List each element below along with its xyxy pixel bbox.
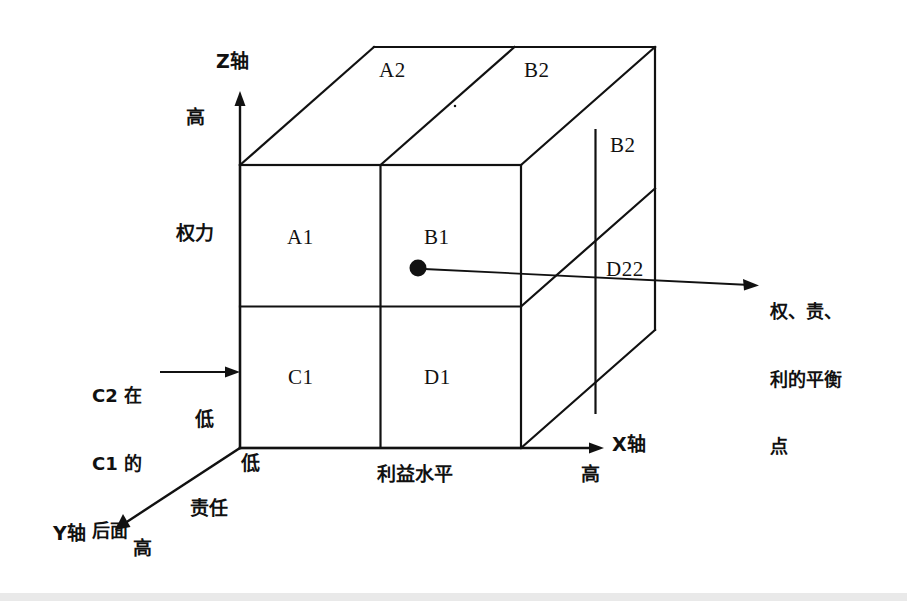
cell-label-a1: A1: [287, 225, 314, 250]
y-axis-name: Y轴: [53, 522, 86, 544]
cell-label-b1: B1: [424, 225, 450, 250]
z-axis-name: Z轴: [216, 50, 249, 72]
balance-point-arrowhead: [743, 279, 759, 291]
hidden-cell-note-line-3: 后面: [92, 520, 142, 543]
hidden-cell-note-line-2: C1 的: [92, 453, 142, 476]
cell-label-a2: A2: [379, 58, 406, 83]
cell-label-b2-side: B2: [610, 133, 636, 158]
x-axis-name: X轴: [612, 433, 646, 455]
x-axis-quantity-label: 利益水平: [377, 463, 453, 485]
z-axis-low-label: 低: [195, 408, 214, 430]
y-axis-quantity-label: 责任: [190, 497, 228, 519]
balance-point-dot: [410, 260, 427, 277]
balance-point-line-2: 利的平衡: [770, 369, 842, 392]
cell-label-b2-top: B2: [524, 58, 550, 83]
cell-label-c1: C1: [288, 365, 314, 390]
x-axis-arrowhead: [589, 443, 604, 454]
diagram-canvas: Z轴 高 低 权力 X轴 低 利益水平 高 Y轴 责任 高 A1 B1 C1 D…: [0, 0, 907, 601]
hidden-cell-note-line-1: C2 在: [92, 385, 142, 408]
cell-label-d22-side: D22: [606, 257, 644, 282]
x-axis-low-label: 低: [241, 452, 260, 474]
z-axis-arrowhead: [235, 91, 246, 106]
scan-edge-bottom: [0, 593, 907, 601]
cell-label-d1: D1: [424, 365, 451, 390]
z-axis-high-label: 高: [186, 106, 205, 128]
balance-point-annotation: 权、责、 利的平衡 点: [770, 256, 842, 504]
balance-point-line-3: 点: [770, 436, 842, 459]
balance-point-line-1: 权、责、: [770, 301, 842, 324]
hidden-cell-note: C2 在 C1 的 后面: [92, 340, 142, 588]
x-axis-high-label: 高: [581, 463, 600, 485]
z-axis-quantity-label: 权力: [176, 222, 195, 245]
balance-point-leader-line: [424, 269, 750, 285]
hidden-cell-note-arrowhead: [225, 367, 240, 378]
